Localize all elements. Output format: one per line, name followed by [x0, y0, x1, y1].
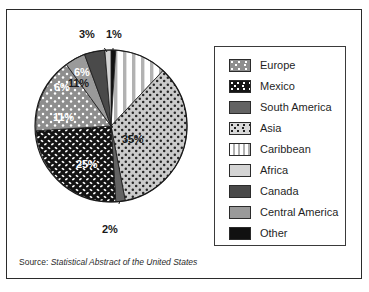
africa-swatch-icon: [229, 164, 251, 177]
pie-slices: [36, 50, 187, 202]
pie-graphic: 11% 35% 25% 11% 6% 6%: [33, 48, 189, 204]
legend-label-europe: Europe: [260, 60, 295, 71]
legend-label-canada: Canada: [260, 186, 299, 197]
legend-item-south-america[interactable]: South America: [229, 97, 345, 118]
slice-label-asia: 11%: [53, 111, 74, 123]
legend-label-central-america: Central America: [260, 207, 338, 218]
slice-label-central-america: 6%: [54, 81, 70, 93]
callout-label-africa: 3%: [79, 28, 95, 40]
legend-item-central-america[interactable]: Central America: [229, 202, 345, 223]
legend-item-other[interactable]: Other: [229, 223, 345, 244]
pie-chart-area: 11% 35% 25% 11% 6% 6% 3% 1% 2%: [7, 10, 213, 240]
slice-label-caribbean: 11%: [68, 77, 89, 89]
slice-label-europe: 35%: [122, 133, 143, 145]
legend-label-asia: Asia: [260, 123, 281, 134]
cropped-title-remnant: · · ·: [0, 0, 369, 6]
caribbean-swatch-icon: [229, 143, 251, 156]
legend: Europe Mexico South America Asia Caribbe…: [214, 46, 346, 246]
slice-label-canada: 6%: [74, 66, 90, 78]
source-prefix: Source:: [19, 257, 48, 267]
legend-item-mexico[interactable]: Mexico: [229, 76, 345, 97]
legend-label-south-america: South America: [260, 102, 332, 113]
slice-label-mexico: 25%: [76, 158, 97, 170]
callout-label-south-america: 2%: [102, 223, 118, 235]
legend-item-asia[interactable]: Asia: [229, 118, 345, 139]
source-title: Statistical Abstract of the United State…: [51, 257, 198, 267]
pie-svg: [33, 48, 189, 204]
legend-item-canada[interactable]: Canada: [229, 181, 345, 202]
canada-swatch-icon: [229, 185, 251, 198]
legend-label-caribbean: Caribbean: [260, 144, 311, 155]
mexico-swatch-icon: [229, 80, 251, 93]
legend-item-caribbean[interactable]: Caribbean: [229, 139, 345, 160]
figure-frame: 11% 35% 25% 11% 6% 6% 3% 1% 2% Europe Me…: [6, 9, 362, 279]
asia-swatch-icon: [229, 122, 251, 135]
legend-label-africa: Africa: [260, 165, 288, 176]
legend-item-europe[interactable]: Europe: [229, 55, 345, 76]
other-swatch-icon: [229, 227, 251, 240]
source-note: Source: Statistical Abstract of the Unit…: [19, 257, 197, 267]
crop-remnant-text: · · ·: [92, 0, 109, 3]
south-america-swatch-icon: [229, 101, 251, 114]
legend-label-mexico: Mexico: [260, 81, 295, 92]
callout-label-other: 1%: [106, 28, 122, 40]
legend-label-other: Other: [260, 228, 288, 239]
central-america-swatch-icon: [229, 206, 251, 219]
europe-swatch-icon: [229, 59, 251, 72]
legend-item-africa[interactable]: Africa: [229, 160, 345, 181]
